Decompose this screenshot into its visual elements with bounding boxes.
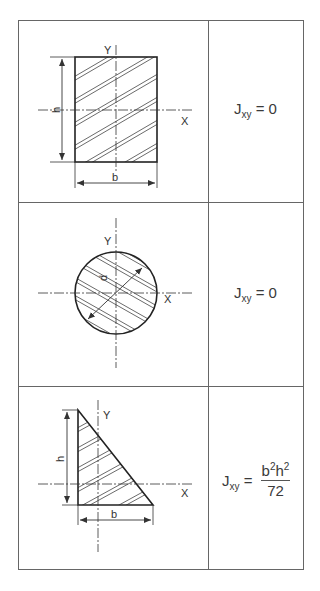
triangle-section: Y X h b (38, 377, 194, 552)
formula-triangle: Jxy = b2h2 72 (222, 461, 290, 499)
x-axis-label: X (181, 487, 189, 499)
formula-symbol: J (234, 284, 242, 301)
formula-subscript: xy (242, 109, 252, 120)
fraction-numerator: b2h2 (261, 461, 291, 481)
formula-equals: = (256, 100, 265, 117)
formula-fraction: b2h2 72 (261, 461, 291, 499)
width-label: b (112, 171, 118, 183)
formula-circle: Jxy = 0 (234, 284, 277, 301)
formula-subscript: xy (230, 481, 240, 492)
y-axis-label: Y (104, 44, 112, 56)
x-axis-label: X (164, 293, 172, 305)
circle-hatching (60, 215, 180, 377)
rectangle-section: Y X h b (38, 15, 194, 227)
triangle-hatching (70, 377, 170, 536)
formula-equals: = (256, 284, 265, 301)
formula-value: 0 (269, 284, 277, 301)
numerator-h: h (276, 462, 284, 479)
y-axis-label: Y (103, 409, 111, 421)
numerator-h-exponent: 2 (284, 461, 290, 472)
formula-symbol: J (234, 100, 242, 117)
fraction-denominator: 72 (261, 481, 291, 499)
height-label: h (50, 107, 62, 113)
circle-section: Y X d (38, 215, 194, 377)
formula-rectangle: Jxy = 0 (234, 100, 277, 117)
width-label: b (111, 508, 117, 520)
x-axis-label: X (181, 115, 189, 127)
height-label: h (54, 456, 66, 462)
formula-subscript: xy (242, 293, 252, 304)
formula-value: 0 (269, 100, 277, 117)
numerator-b: b (262, 462, 270, 479)
rectangle-hatching (60, 15, 180, 227)
formula-symbol: J (222, 472, 230, 489)
formula-equals: = (244, 472, 253, 489)
diameter-label: d (97, 275, 109, 281)
y-axis-label: Y (104, 235, 112, 247)
